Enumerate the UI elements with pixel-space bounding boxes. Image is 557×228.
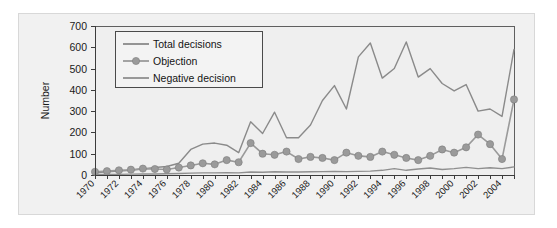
series-marker xyxy=(427,152,434,159)
x-tick-label: 1996 xyxy=(385,178,408,201)
series-marker xyxy=(187,162,194,169)
series-marker xyxy=(295,155,302,162)
line-chart: 0100200300400500600700 19701972197419761… xyxy=(19,14,536,216)
series-marker xyxy=(235,159,242,166)
y-tick-labels: 0100200300400500600700 xyxy=(69,20,87,181)
series-marker xyxy=(391,151,398,158)
series-marker xyxy=(474,131,481,138)
x-tick-label: 1970 xyxy=(74,178,97,201)
x-tick-label: 1986 xyxy=(265,178,288,201)
x-tick-labels: 1970197219741976197819801982198419861988… xyxy=(74,178,504,201)
figure-card: 0100200300400500600700 19701972197419761… xyxy=(18,13,535,215)
x-tick-label: 2002 xyxy=(457,178,480,201)
chart-legend: Total decisionsObjectionNegative decisio… xyxy=(115,31,262,87)
y-tick-label: 500 xyxy=(69,63,87,75)
series-marker xyxy=(403,154,410,161)
x-tick-label: 1994 xyxy=(361,178,384,201)
x-tick-label: 2000 xyxy=(433,178,456,201)
series-marker xyxy=(367,153,374,160)
series-marker xyxy=(498,155,505,162)
x-tick-label: 1988 xyxy=(289,178,312,201)
legend-label: Negative decision xyxy=(153,72,236,84)
series-marker xyxy=(151,165,158,172)
x-tick-label: 1990 xyxy=(313,178,336,201)
y-tick-label: 600 xyxy=(69,41,87,53)
chart-screenshot: 0100200300400500600700 19701972197419761… xyxy=(0,0,557,228)
y-tick-label: 400 xyxy=(69,84,87,96)
x-tick-label: 1980 xyxy=(193,178,216,201)
x-tick-label: 1984 xyxy=(241,178,264,201)
series-marker xyxy=(331,157,338,164)
series-marker xyxy=(199,160,206,167)
series-marker xyxy=(223,157,230,164)
series-marker xyxy=(486,141,493,148)
series-marker xyxy=(510,96,517,103)
x-tick-label: 1978 xyxy=(169,178,192,201)
y-tick-label: 100 xyxy=(69,148,87,160)
y-axis-title: Number xyxy=(39,81,51,119)
x-tick-label: 2004 xyxy=(481,178,504,201)
series-marker xyxy=(127,166,134,173)
series-marker xyxy=(307,153,314,160)
series-marker xyxy=(343,149,350,156)
series-marker xyxy=(463,144,470,151)
series-marker xyxy=(115,167,122,174)
series-marker xyxy=(247,139,254,146)
legend-swatch-marker xyxy=(132,57,139,64)
series-marker xyxy=(355,152,362,159)
x-tick-label: 1972 xyxy=(98,178,121,201)
series-marker xyxy=(379,148,386,155)
chart-area: 0100200300400500600700 19701972197419761… xyxy=(19,14,536,216)
x-tick-label: 1992 xyxy=(337,178,360,201)
series-marker xyxy=(271,151,278,158)
series-marker xyxy=(163,166,170,173)
legend-label: Objection xyxy=(153,55,198,67)
series-marker xyxy=(211,161,218,168)
y-tick-label: 200 xyxy=(69,126,87,138)
series-marker xyxy=(175,164,182,171)
y-tick-label: 700 xyxy=(69,20,87,32)
x-tick-label: 1976 xyxy=(146,178,169,201)
series-marker xyxy=(319,154,326,161)
x-tick-label: 1998 xyxy=(409,178,432,201)
y-tick-label: 300 xyxy=(69,105,87,117)
x-tick-label: 1982 xyxy=(217,178,240,201)
series-marker xyxy=(283,148,290,155)
series-marker xyxy=(259,150,266,157)
x-tick-label: 1974 xyxy=(122,178,145,201)
series-marker xyxy=(415,157,422,164)
legend-label: Total decisions xyxy=(153,38,222,50)
series-marker xyxy=(139,165,146,172)
series-marker xyxy=(439,146,446,153)
series-marker xyxy=(451,149,458,156)
